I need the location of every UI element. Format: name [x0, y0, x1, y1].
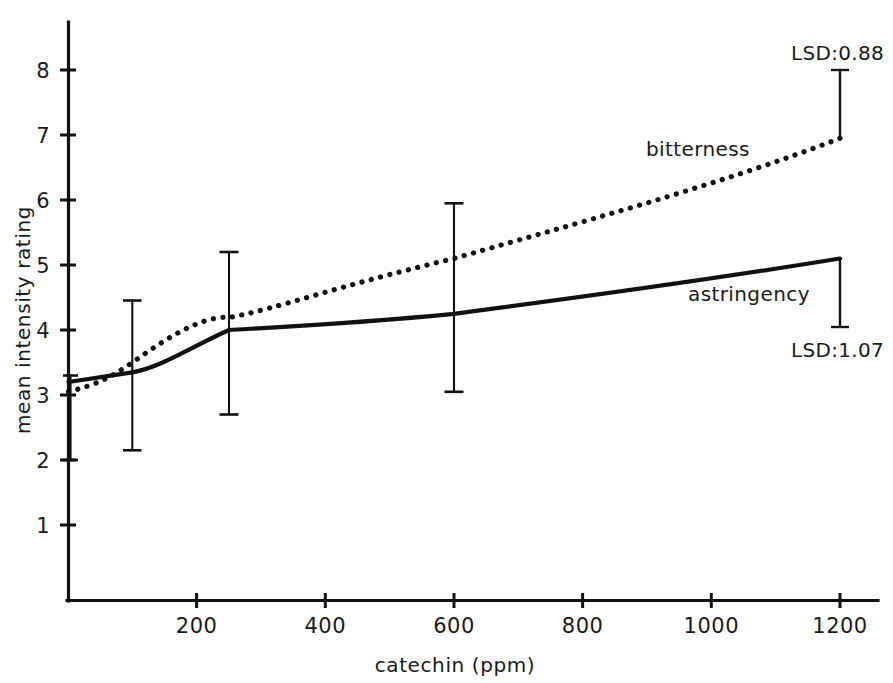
lsd-astringency-group: LSD:1.07 [791, 259, 884, 363]
x-tick-label-400: 400 [305, 614, 347, 638]
y-tick-label-5: 5 [36, 254, 50, 278]
x-tick-label-600: 600 [433, 614, 475, 638]
x-axis-title: catechin (ppm) [375, 653, 536, 677]
error-bar-600ppm [445, 203, 464, 391]
lsd-astringency-label: LSD:1.07 [791, 338, 884, 362]
bitterness-series-label: bitterness [646, 137, 750, 161]
lsd-bitterness-label: LSD:0.88 [791, 41, 884, 65]
astringency-series-label: astringency [688, 282, 810, 306]
y-axis-tick-labels: 8 7 6 5 4 3 2 1 [36, 59, 50, 538]
x-tick-label-1200: 1200 [812, 614, 867, 638]
y-tick-label-1: 1 [36, 514, 50, 538]
x-tick-label-800: 800 [562, 614, 604, 638]
y-tick-label-7: 7 [36, 124, 50, 148]
x-tick-label-200: 200 [176, 614, 218, 638]
error-bars-group [63, 203, 464, 460]
y-tick-label-3: 3 [36, 384, 50, 408]
y-axis-title: mean intensity rating [11, 206, 35, 434]
x-tick-label-1000: 1000 [684, 614, 739, 638]
y-tick-label-8: 8 [36, 59, 50, 83]
x-axis-tick-labels: 200 400 600 800 1000 1200 [176, 614, 868, 638]
chart-figure: 8 7 6 5 4 3 2 1 200 400 600 800 1000 120… [0, 0, 893, 683]
y-tick-label-6: 6 [36, 189, 50, 213]
chart-svg: 8 7 6 5 4 3 2 1 200 400 600 800 1000 120… [0, 0, 893, 683]
lsd-bitterness-group: LSD:0.88 [791, 41, 884, 138]
y-tick-label-2: 2 [36, 449, 50, 473]
y-tick-label-4: 4 [36, 319, 50, 343]
